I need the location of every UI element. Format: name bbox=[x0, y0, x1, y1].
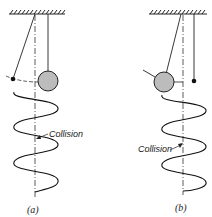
helix-trajectory-b bbox=[162, 95, 206, 191]
arrowhead-b bbox=[178, 143, 183, 148]
panel-caption-b: (b) bbox=[175, 202, 187, 214]
small-bob-b bbox=[192, 79, 197, 84]
ceiling-b bbox=[149, 10, 207, 14]
swing-mark-b bbox=[143, 70, 155, 77]
small-bob-a bbox=[11, 77, 16, 82]
collision-label-a: Collision bbox=[49, 129, 83, 139]
panel-a: Collision (a) bbox=[6, 10, 83, 216]
large-ball-a bbox=[38, 71, 58, 91]
pendulum-collision-diagram: Collision (a) bbox=[0, 0, 212, 217]
ceiling-a bbox=[9, 10, 65, 14]
string-large-ball-b bbox=[164, 14, 181, 82]
panel-caption-a: (a) bbox=[27, 204, 39, 216]
large-ball-b bbox=[154, 72, 174, 92]
collision-label-b: Collision bbox=[138, 144, 172, 154]
panel-b: Collision (b) bbox=[138, 10, 207, 214]
helix-trajectory-a bbox=[14, 92, 58, 192]
string-small-bob-a bbox=[13, 14, 35, 79]
